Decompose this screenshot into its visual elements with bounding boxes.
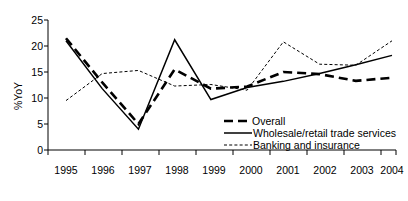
legend-label-overall: Overall [252,115,285,127]
legend-label-banking: Banking and insurance [253,139,360,151]
x-tick-label: 2003 [350,164,374,176]
y-tick-label: 5 [37,118,43,130]
x-tick-labels: 1995 1996 1997 1998 1999 2000 2001 2002 … [54,164,404,176]
series-line-overall [66,38,392,124]
x-tick-label: 1997 [128,164,152,176]
x-tick-label: 2004 [380,164,404,176]
y-tick-labels: 25 20 15 10 5 0 [31,14,43,156]
y-tick-label: 15 [31,66,43,78]
y-axis-title: %YoY [12,82,24,110]
x-tick-label: 1996 [91,164,115,176]
x-tick-label: 2000 [239,164,263,176]
line-chart: %YoY 25 20 15 10 5 0 [0,0,408,201]
x-tick-label: 1999 [202,164,226,176]
legend-label-wholesale: Wholesale/retail trade services [253,127,396,139]
x-tick-label: 1998 [165,164,189,176]
x-tick-label: 1995 [54,164,78,176]
chart-container: %YoY 25 20 15 10 5 0 [0,0,408,201]
y-axis [44,20,48,150]
y-tick-label: 20 [31,40,43,52]
y-tick-label: 10 [31,92,43,104]
y-tick-label: 25 [31,14,43,26]
series-line-banking-and-insurance [66,41,392,101]
x-tick-label: 2001 [276,164,300,176]
chart-legend: Overall Wholesale/retail trade services … [224,115,396,151]
y-tick-label: 0 [37,144,43,156]
x-tick-label: 2002 [313,164,337,176]
series-line-wholesale-retail-trade-services [66,40,392,129]
